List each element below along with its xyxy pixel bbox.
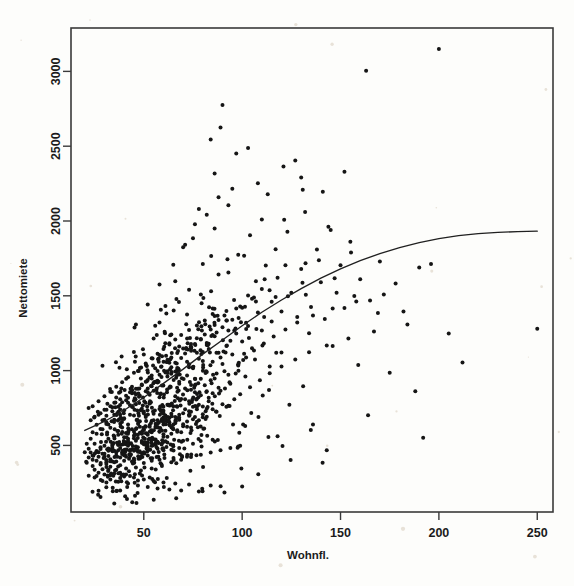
data-point xyxy=(197,207,201,211)
data-point xyxy=(220,103,224,107)
data-point xyxy=(93,476,97,480)
data-point xyxy=(177,413,181,417)
data-point xyxy=(148,475,152,479)
data-point xyxy=(307,331,311,335)
data-point xyxy=(177,446,181,450)
data-point xyxy=(388,371,392,375)
data-point xyxy=(248,385,252,389)
data-point xyxy=(100,452,104,456)
data-point xyxy=(145,447,149,451)
data-point xyxy=(169,385,173,389)
data-point xyxy=(161,440,165,444)
data-point xyxy=(149,384,153,388)
data-point xyxy=(99,461,103,465)
data-point xyxy=(171,426,175,430)
data-point xyxy=(185,388,189,392)
data-point xyxy=(167,488,171,492)
data-point xyxy=(89,418,93,422)
data-point xyxy=(270,300,274,304)
x-tick-label: 100 xyxy=(232,526,253,540)
data-point xyxy=(172,378,176,382)
data-point xyxy=(149,428,153,432)
data-point xyxy=(145,404,149,408)
data-point xyxy=(114,480,118,484)
data-point xyxy=(96,493,100,497)
data-point xyxy=(230,352,234,356)
data-point xyxy=(130,387,134,391)
data-point xyxy=(217,273,221,277)
scan-speckle xyxy=(89,285,92,288)
data-point xyxy=(160,417,164,421)
data-point xyxy=(207,396,211,400)
data-point xyxy=(172,309,176,313)
data-point xyxy=(200,444,204,448)
x-tick-label: 150 xyxy=(330,526,351,540)
data-point xyxy=(136,422,140,426)
data-point xyxy=(150,419,154,423)
data-point xyxy=(130,500,134,504)
data-point xyxy=(417,265,421,269)
data-point xyxy=(236,253,240,257)
data-point xyxy=(158,458,162,462)
data-point xyxy=(224,351,228,355)
data-point xyxy=(120,354,124,358)
data-point xyxy=(197,320,201,324)
data-point xyxy=(183,407,187,411)
data-point xyxy=(114,360,118,364)
scan-speckle xyxy=(15,461,19,465)
data-point xyxy=(219,448,223,452)
scan-speckle xyxy=(435,207,437,209)
data-point xyxy=(179,404,183,408)
data-point xyxy=(394,282,398,286)
data-point xyxy=(132,414,136,418)
data-point xyxy=(249,411,253,415)
data-point xyxy=(267,388,271,392)
data-point xyxy=(187,402,191,406)
data-point xyxy=(118,456,122,460)
data-point xyxy=(154,467,158,471)
data-point xyxy=(283,263,287,267)
data-point xyxy=(230,187,234,191)
plot-canvas: 50100150200250 50010001500200025003000 W… xyxy=(0,0,574,586)
data-point xyxy=(132,350,136,354)
data-point xyxy=(178,399,182,403)
scan-speckle xyxy=(10,263,11,264)
data-point xyxy=(299,176,303,180)
data-point xyxy=(254,327,258,331)
data-point xyxy=(91,490,95,494)
data-point xyxy=(175,404,179,408)
data-point xyxy=(162,369,166,373)
data-point xyxy=(200,301,204,305)
data-point xyxy=(207,399,211,403)
data-point xyxy=(246,146,250,150)
data-point xyxy=(199,324,203,328)
data-point xyxy=(118,403,122,407)
data-point xyxy=(110,409,114,413)
data-point xyxy=(132,447,136,451)
data-point xyxy=(283,327,287,331)
data-point xyxy=(97,471,101,475)
data-point xyxy=(141,426,145,430)
data-point xyxy=(201,296,205,300)
data-point xyxy=(307,350,311,354)
data-point xyxy=(167,341,171,345)
data-point xyxy=(264,264,268,268)
data-point xyxy=(151,356,155,360)
data-point xyxy=(281,444,285,448)
data-point xyxy=(99,478,103,482)
data-point xyxy=(125,485,129,489)
data-point xyxy=(142,399,146,403)
data-point xyxy=(401,310,405,314)
data-point xyxy=(222,369,226,373)
data-point xyxy=(125,448,129,452)
data-point xyxy=(187,328,191,332)
scan-speckle xyxy=(330,43,333,46)
data-point xyxy=(211,373,215,377)
data-point xyxy=(185,373,189,377)
data-point xyxy=(228,339,232,343)
data-point xyxy=(113,405,117,409)
data-point xyxy=(185,337,189,341)
data-point xyxy=(260,329,264,333)
data-point xyxy=(134,466,138,470)
data-point xyxy=(199,433,203,437)
